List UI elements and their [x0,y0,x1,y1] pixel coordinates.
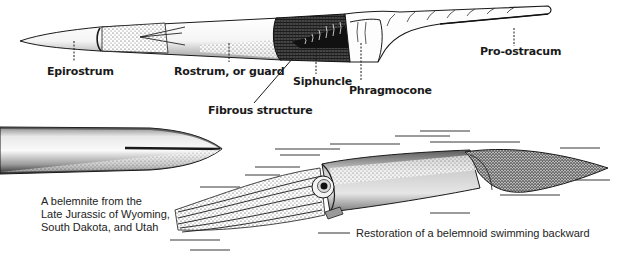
fossil-caption-line: Late Jurassic of Wyoming, [41,208,170,221]
label-pro-ostracum: Pro-ostracum [480,45,561,58]
fossil-caption: A belemnite from the Late Jurassic of Wy… [41,195,170,234]
label-epirostrum: Epirostrum [47,65,114,78]
belemnite-fossil-drawing [0,127,222,174]
fossil-caption-line: South Dakota, and Utah [41,221,170,234]
label-siphuncle: Siphuncle [293,75,352,88]
label-rostrum-or-guard: Rostrum, or guard [174,65,284,78]
restoration-caption: Restoration of a belemnoid swimming back… [356,227,590,240]
fossil-caption-line: A belemnite from the [41,195,170,208]
belemnite-cutaway-drawing [20,6,551,103]
label-phragmocone: Phragmocone [349,84,432,97]
label-fibrous-structure: Fibrous structure [208,104,313,117]
